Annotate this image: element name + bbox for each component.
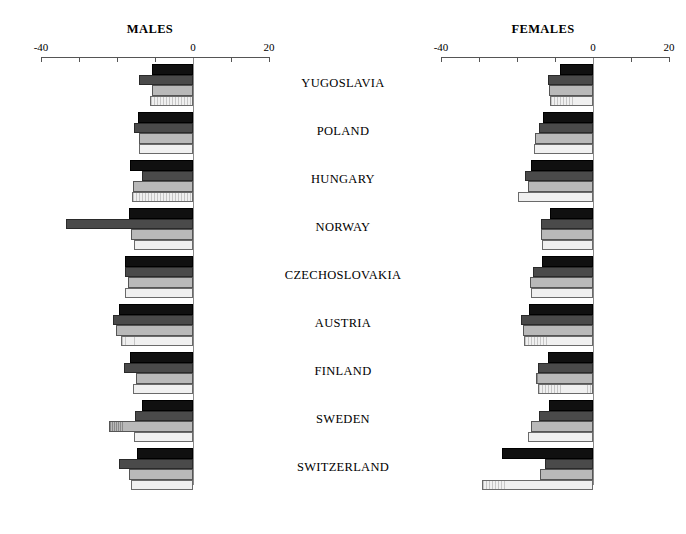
bar: [545, 459, 593, 470]
bar: [130, 160, 193, 171]
zero-baseline-males: [193, 58, 194, 485]
bar: [548, 75, 593, 86]
bar: [136, 373, 193, 384]
bar: [524, 336, 593, 347]
bar: [131, 480, 193, 491]
bar: [540, 469, 593, 480]
bar: [534, 144, 593, 155]
bar: [152, 85, 193, 96]
bar: [139, 133, 193, 144]
bar: [119, 459, 193, 470]
bar: [133, 181, 193, 192]
country-label: NORWAY: [253, 220, 433, 235]
bar: [131, 229, 193, 240]
bar: [139, 75, 193, 86]
bar: [152, 64, 193, 75]
country-label: SWEDEN: [253, 412, 433, 427]
bar: [125, 267, 193, 278]
bar: [150, 96, 193, 107]
bar: [531, 421, 593, 432]
bar: [549, 400, 593, 411]
axis-tick-label: -40: [30, 41, 52, 53]
country-label: SWITZERLAND: [253, 460, 433, 475]
bar: [502, 448, 593, 459]
country-label: CZECHOSLOVAKIA: [253, 268, 433, 283]
bar: [482, 480, 593, 491]
country-label: AUSTRIA: [253, 316, 433, 331]
bar: [536, 373, 593, 384]
bar: [129, 469, 193, 480]
bar: [130, 352, 193, 363]
bar: [541, 219, 593, 230]
bar: [539, 411, 593, 422]
axis-tick: [555, 57, 556, 62]
bar: [121, 336, 193, 347]
bar: [142, 400, 193, 411]
axis-tick: [517, 57, 518, 62]
bar: [549, 85, 593, 96]
bar: [113, 315, 193, 326]
bar: [538, 363, 593, 374]
bar: [134, 123, 193, 134]
axis-tick: [79, 57, 80, 62]
axis-tick: [669, 57, 670, 62]
bar: [518, 192, 593, 203]
axis-tick: [155, 57, 156, 62]
bar: [548, 352, 593, 363]
axis-tick-label: -40: [430, 41, 452, 53]
bar: [535, 133, 593, 144]
axis-tick: [631, 57, 632, 62]
bar: [533, 267, 593, 278]
bar: [528, 432, 593, 443]
bar: [521, 315, 593, 326]
axis-tick: [231, 57, 232, 62]
bar: [542, 240, 593, 251]
country-label-column: YUGOSLAVIAPOLANDHUNGARYNORWAYCZECHOSLOVA…: [253, 0, 433, 534]
axis-tick: [117, 57, 118, 62]
panel-title-females: FEMALES: [400, 22, 686, 37]
bar: [66, 219, 193, 230]
bar: [543, 112, 593, 123]
country-label: HUNGARY: [253, 172, 433, 187]
bar: [129, 208, 193, 219]
bar: [142, 171, 193, 182]
bar: [531, 160, 593, 171]
bar: [125, 288, 193, 299]
axis-tick-label: 0: [182, 41, 204, 53]
bar: [135, 411, 193, 422]
bar: [550, 96, 593, 107]
bar: [124, 363, 193, 374]
country-label: FINLAND: [253, 364, 433, 379]
bar: [539, 123, 593, 134]
bar: [134, 240, 193, 251]
bar: [138, 112, 193, 123]
bar: [132, 192, 193, 203]
bar: [119, 304, 193, 315]
zero-baseline-females: [593, 58, 594, 485]
country-label: POLAND: [253, 124, 433, 139]
bar: [128, 277, 193, 288]
bar: [525, 171, 593, 182]
bar: [116, 325, 193, 336]
bar: [542, 256, 593, 267]
bar: [109, 421, 193, 432]
axis-tick: [41, 57, 42, 62]
bar: [137, 448, 193, 459]
axis-tick-label: 20: [658, 41, 680, 53]
bar: [531, 288, 593, 299]
axis-tick-label: 0: [582, 41, 604, 53]
bar: [523, 325, 593, 336]
bar: [125, 256, 193, 267]
bar: [139, 144, 193, 155]
bar: [133, 384, 193, 395]
bar: [528, 181, 593, 192]
bar: [538, 384, 593, 395]
bar: [530, 277, 593, 288]
axis-tick: [479, 57, 480, 62]
bar-chart-figure: MALES FEMALES -40020-40020 YUGOSLAVIAPOL…: [0, 0, 686, 534]
country-label: YUGOSLAVIA: [253, 76, 433, 91]
bar: [134, 432, 193, 443]
bar: [560, 64, 593, 75]
bar: [550, 208, 593, 219]
bar: [529, 304, 593, 315]
